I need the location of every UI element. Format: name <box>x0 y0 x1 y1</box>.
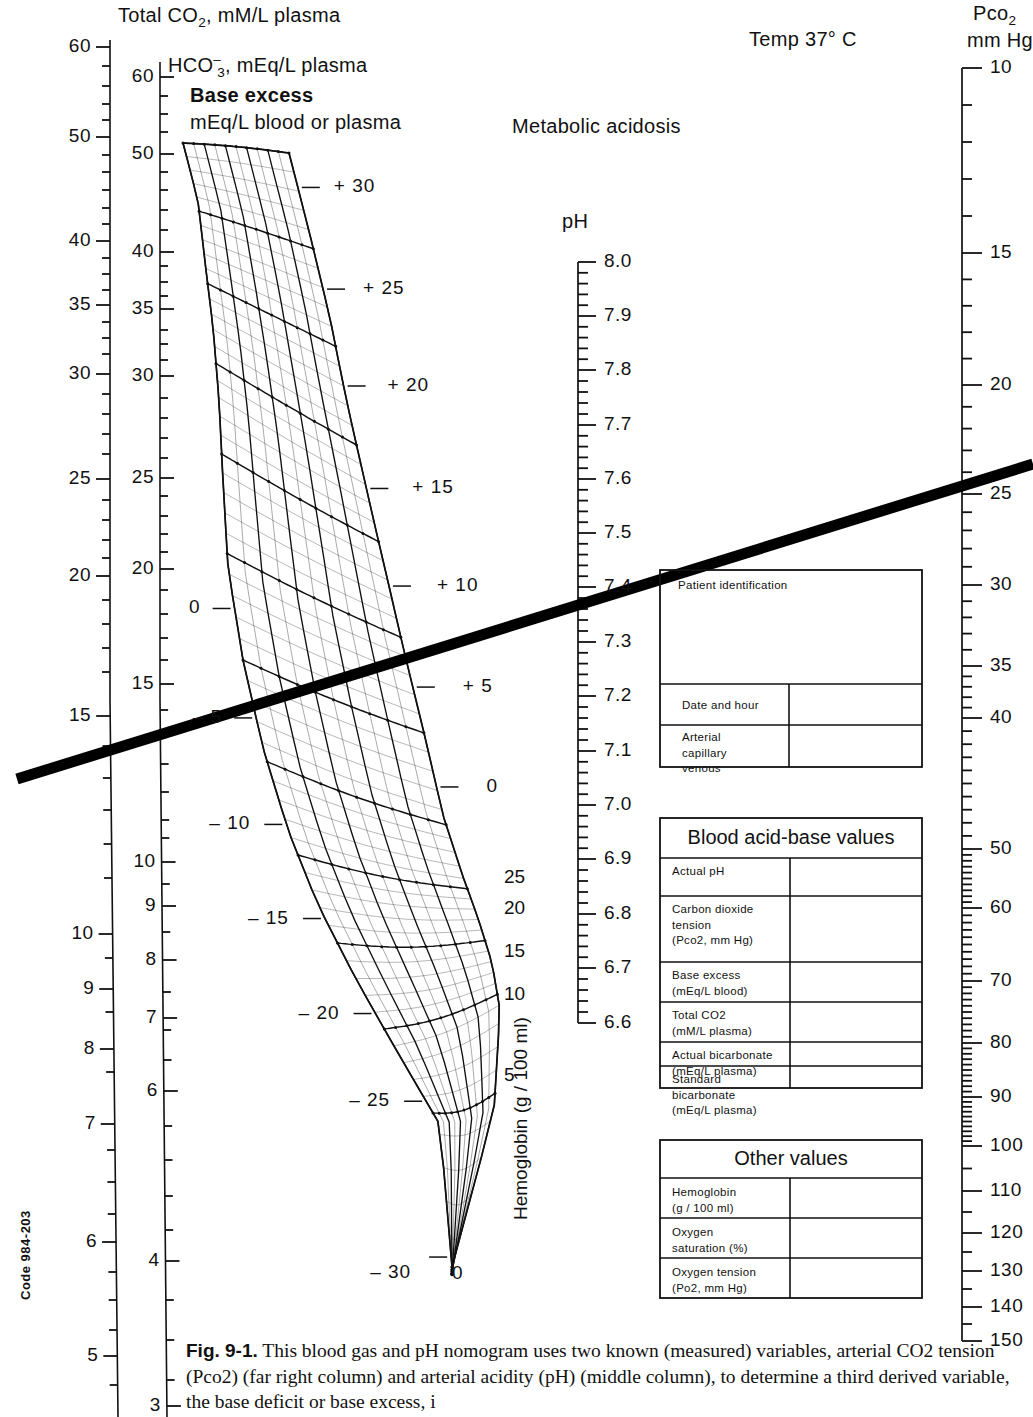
other-values-field-oxygen-tension[interactable] <box>792 1260 922 1296</box>
tick-label-bicarbonate-4: 4 <box>148 1249 159 1271</box>
tick-label-total-co2-35: 35 <box>69 293 91 315</box>
tick-label-bicarbonate-35: 35 <box>132 297 154 319</box>
base-excess-label-2: + 20 <box>388 374 430 396</box>
tick-label-pco2-90: 90 <box>990 1085 1012 1107</box>
tick-label-total-co2-60: 60 <box>69 35 91 57</box>
patient-date-hour-label: Date and hour <box>682 698 782 714</box>
acid-base-value-carbon-dioxide-tension[interactable] <box>792 898 922 960</box>
base-excess-label-9: – 10 <box>209 812 250 834</box>
base-excess-label-12: – 25 <box>349 1089 390 1111</box>
base-excess-label-4: + 10 <box>437 574 479 596</box>
base-excess-label-0: + 30 <box>334 175 376 197</box>
base-excess-label-8: – 5 <box>193 706 222 728</box>
base-excess-label-7: 0 <box>487 775 499 797</box>
patient-identification-field[interactable] <box>662 592 920 682</box>
tick-label-pco2-25: 25 <box>990 482 1012 504</box>
other-values-label-hemoglobin: Hemoglobin (g / 100 ml) <box>672 1185 784 1216</box>
acid-base-label-standard-bicarbonate: Standard bicarbonate (mEq/L plasma) <box>672 1072 784 1119</box>
hemoglobin-label-25: 25 <box>504 866 525 888</box>
tick-label-ph-7-3: 7.3 <box>604 630 632 652</box>
acid-base-label-actual-ph: Actual pH <box>672 864 784 880</box>
tick-label-bicarbonate-60: 60 <box>132 65 154 87</box>
tick-label-total-co2-7: 7 <box>85 1112 96 1134</box>
tick-label-bicarbonate-7: 7 <box>146 1006 157 1028</box>
tick-label-total-co2-9: 9 <box>83 977 94 999</box>
base-excess-label-10: – 15 <box>248 907 289 929</box>
tick-label-pco2-30: 30 <box>990 573 1012 595</box>
base-excess-label-11: – 20 <box>299 1002 340 1024</box>
tick-label-ph-7-8: 7.8 <box>604 358 632 380</box>
patient-sample-type-label: Arterial capillary venous <box>682 730 782 777</box>
tick-label-pco2-100: 100 <box>990 1134 1023 1156</box>
tick-label-ph-7-7: 7.7 <box>604 413 632 435</box>
tick-label-ph-6-8: 6.8 <box>604 902 632 924</box>
base-excess-label-5: + 5 <box>463 675 493 697</box>
tick-label-pco2-130: 130 <box>990 1259 1023 1281</box>
base-excess-label-13: – 30 <box>370 1261 411 1283</box>
axis-total-co2 <box>110 40 118 1417</box>
total-co2-axis-title: Total CO2, mM/L plasma <box>118 4 340 31</box>
tick-label-bicarbonate-25: 25 <box>132 466 154 488</box>
metabolic-acidosis-label: Metabolic acidosis <box>512 115 681 138</box>
pco2-axis-title: Pco2 mm Hg <box>973 2 1033 52</box>
tick-label-pco2-50: 50 <box>990 837 1012 859</box>
acid-base-label-total-co2: Total CO2 (mM/L plasma) <box>672 1008 784 1039</box>
tick-label-total-co2-40: 40 <box>69 229 91 251</box>
axis-pco2-ticks <box>962 68 982 1341</box>
acid-base-box-title: Blood acid-base values <box>660 826 922 849</box>
other-values-field-hemoglobin[interactable] <box>792 1180 922 1216</box>
tick-label-ph-7-2: 7.2 <box>604 684 632 706</box>
tick-label-pco2-70: 70 <box>990 969 1012 991</box>
tick-label-bicarbonate-50: 50 <box>132 142 154 164</box>
tick-label-ph-8-0: 8.0 <box>604 250 632 272</box>
hemoglobin-label-15: 15 <box>504 940 525 962</box>
base-excess-axis-title-line1: Base excess <box>190 84 313 107</box>
other-values-label-oxygen-tension: Oxygen tension (Po2, mm Hg) <box>672 1265 784 1296</box>
figure-caption: Fig. 9-1. This blood gas and pH nomogram… <box>186 1338 1016 1415</box>
axis-bicarbonate-ticks <box>160 77 181 1406</box>
code-label: Code 984-203 <box>18 1210 33 1300</box>
axis-ph-ticks <box>578 262 596 1023</box>
acid-base-label-carbon-dioxide-tension: Carbon dioxide tension (Pco2, mm Hg) <box>672 902 784 949</box>
tick-label-bicarbonate-30: 30 <box>132 364 154 386</box>
tick-label-pco2-15: 15 <box>990 241 1012 263</box>
tick-label-pco2-20: 20 <box>990 373 1012 395</box>
base-excess-label-1: + 25 <box>363 277 405 299</box>
hemoglobin-label-5: 5 <box>504 1064 515 1086</box>
temperature-label: Temp 37° C <box>749 28 857 51</box>
acid-base-value-actual-ph[interactable] <box>792 860 922 894</box>
tick-label-bicarbonate-3: 3 <box>150 1394 161 1416</box>
tick-label-pco2-80: 80 <box>990 1031 1012 1053</box>
base-excess-axis-title-line2: mEq/L blood or plasma <box>190 111 401 134</box>
nomogram-figure: Total CO2, mM/L plasma HCO–3, mEq/L plas… <box>0 0 1033 1417</box>
hemoglobin-label-0: 0 <box>452 1262 463 1284</box>
tick-label-ph-7-6: 7.6 <box>604 467 632 489</box>
tick-label-bicarbonate-9: 9 <box>145 894 156 916</box>
tick-label-ph-7-5: 7.5 <box>604 521 632 543</box>
acid-base-value-actual-bicarbonate[interactable] <box>792 1044 922 1064</box>
tick-label-ph-6-9: 6.9 <box>604 847 632 869</box>
acid-base-value-standard-bicarbonate[interactable] <box>792 1068 922 1086</box>
patient-date-hour-field[interactable] <box>791 686 920 724</box>
tick-label-total-co2-6: 6 <box>86 1230 97 1252</box>
tick-label-ph-7-9: 7.9 <box>604 304 632 326</box>
tick-label-total-co2-5: 5 <box>87 1344 98 1366</box>
tick-label-ph-6-7: 6.7 <box>604 956 632 978</box>
tick-label-pco2-140: 140 <box>990 1295 1023 1317</box>
tick-label-pco2-110: 110 <box>990 1179 1022 1201</box>
hemoglobin-label-10: 10 <box>504 983 525 1005</box>
tick-label-total-co2-8: 8 <box>84 1037 95 1059</box>
tick-label-ph-7-1: 7.1 <box>604 739 632 761</box>
acid-base-value-total-co2[interactable] <box>792 1004 922 1040</box>
base-excess-label-3: + 15 <box>412 476 454 498</box>
other-values-field-oxygen-saturation[interactable] <box>792 1220 922 1256</box>
tick-label-ph-7-0: 7.0 <box>604 793 632 815</box>
tick-label-total-co2-30: 30 <box>69 362 91 384</box>
tick-label-total-co2-25: 25 <box>69 467 91 489</box>
patient-sample-type-field[interactable] <box>791 727 920 766</box>
tick-label-total-co2-10: 10 <box>71 922 93 944</box>
tick-label-bicarbonate-8: 8 <box>145 948 156 970</box>
tick-label-pco2-10: 10 <box>990 56 1012 78</box>
acid-base-value-base-excess[interactable] <box>792 964 922 1000</box>
tick-label-bicarbonate-20: 20 <box>132 557 154 579</box>
